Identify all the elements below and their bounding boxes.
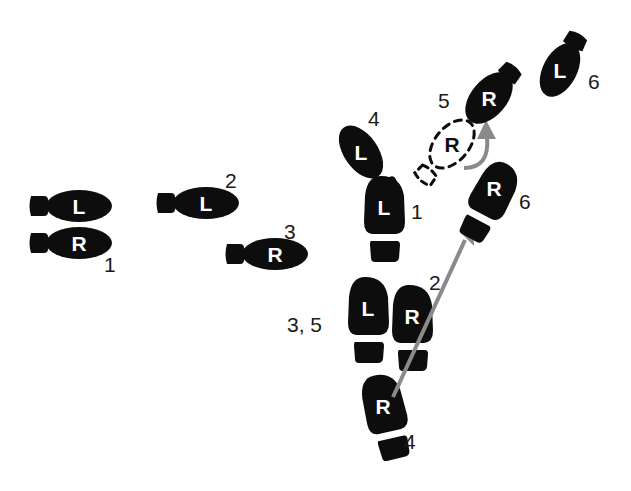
foot-heel-shape — [30, 196, 49, 216]
foot-letter: L — [200, 192, 213, 215]
step-label-l35: 3, 5 — [287, 313, 322, 336]
step-label-l6: 6 — [588, 70, 600, 93]
foot-heel-shape — [226, 244, 245, 264]
foot-heel-shape — [157, 193, 176, 213]
step-label-l1-mid: 1 — [411, 200, 423, 223]
foot-letter: L — [355, 140, 368, 163]
ghost-foot-letter: R — [444, 133, 459, 156]
foot-letter: R — [267, 243, 282, 266]
step-label-r2: 2 — [429, 271, 441, 294]
step-label-r1-left: 1 — [104, 253, 116, 276]
foot-letter: R — [481, 86, 496, 109]
foot-letter: R — [375, 395, 390, 418]
foot-heel-shape — [30, 233, 49, 253]
foot-letter: L — [362, 297, 375, 320]
foot-letter: R — [404, 305, 419, 328]
step-label-l4: 4 — [368, 107, 380, 130]
footprint-diagram-canvas: L R 1 L 2 R 3 L 4 — [0, 0, 631, 491]
footprint-diagram: L R 1 L 2 R 3 L 4 — [0, 0, 631, 491]
foot-letter: L — [73, 195, 86, 218]
foot-letter: R — [486, 177, 501, 200]
foot-letter: L — [378, 196, 391, 219]
foot-letter: L — [554, 59, 567, 82]
step-label-r6: 6 — [519, 190, 531, 213]
foot-letter: R — [71, 232, 86, 255]
step-label-l2: 2 — [225, 169, 237, 192]
foot-heel-shape — [354, 342, 384, 363]
step-label-r4-bottom: 4 — [404, 430, 416, 453]
step-label-r3: 3 — [284, 220, 296, 243]
step-label-r5-ghost: 5 — [438, 89, 450, 112]
foot-heel-shape — [370, 241, 400, 262]
